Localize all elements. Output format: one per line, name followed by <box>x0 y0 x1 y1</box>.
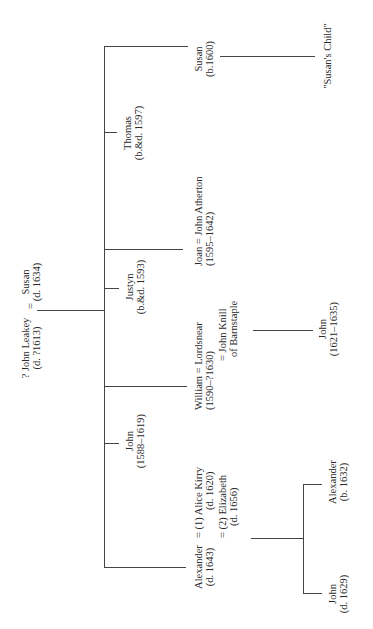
branch-susan <box>104 46 188 47</box>
branch-thomas <box>104 132 117 133</box>
branch-joan <box>104 249 183 250</box>
alexander-children-bar <box>303 484 304 594</box>
parents-connector <box>37 310 104 311</box>
trunk-line <box>104 46 105 568</box>
father-name: ? John Leakey <box>20 312 31 384</box>
grandchild-john-1629: John (d. 1629) <box>327 570 349 618</box>
child-thomas: Thomas (b.&d. 1597) <box>122 103 144 163</box>
child-john: John (1588–1619) <box>124 412 146 470</box>
alexander-spouse1: = (1) Alice Kirry (d. 1620) <box>193 466 215 538</box>
mother-name: Susan <box>20 262 31 302</box>
marriage-sign: = <box>25 302 36 310</box>
grandchild-alexander: Alexander (b. 1632) <box>327 454 349 510</box>
william-spouse2: = John Knill of Barnstaple <box>217 295 239 367</box>
branch-justyn <box>104 288 119 289</box>
william-child-connector <box>253 330 313 331</box>
branch-alexander-son <box>303 484 322 485</box>
father-label: ? John Leakey (d. ?1613) <box>20 312 42 384</box>
branch-john <box>104 443 119 444</box>
father-dates: (d. ?1613) <box>31 312 42 384</box>
grandchild-susans-child: "Susan's Child" <box>322 14 333 98</box>
susan-child-connector <box>220 56 315 57</box>
grandchild-john-1621: John (1621–1635) <box>317 298 339 360</box>
alexander-name: Alexander (d. 1643) <box>193 538 215 596</box>
child-susan: Susan (b.1600) <box>193 38 215 80</box>
mother-dates: (d. 1634) <box>31 262 42 302</box>
mother-label: Susan (d. 1634) <box>20 262 42 302</box>
child-william: William = Lordsnear (1590–?1630) <box>193 300 215 410</box>
child-joan: Joan = John Atherton (1595–1642) <box>193 156 215 266</box>
child-justyn: Justyn (b.&d. 1593) <box>124 257 146 317</box>
branch-alexander <box>104 567 186 568</box>
alexander-children-connector <box>251 538 303 539</box>
branch-william <box>104 386 187 387</box>
branch-john-son <box>303 593 322 594</box>
alexander-spouse2: = (2) Elizabeth (d. 1656) <box>217 466 239 538</box>
